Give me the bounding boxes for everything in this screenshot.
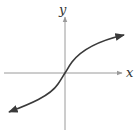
y-axis-label: y: [58, 2, 67, 17]
x-axis-label: x: [126, 65, 134, 80]
graph: y x: [0, 0, 140, 131]
